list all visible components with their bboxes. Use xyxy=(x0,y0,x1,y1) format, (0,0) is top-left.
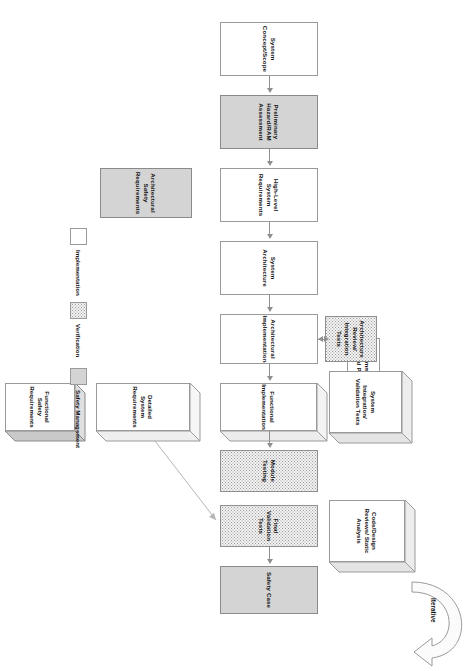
legend-label: Safety Management xyxy=(75,390,82,448)
node-label: Architecture Review/ Integration Tests xyxy=(336,319,366,359)
arrowhead-icon xyxy=(267,443,273,448)
node-label: Preliminary Hazard/RAM Assessment xyxy=(258,98,281,146)
node-label: Architectural Implementation xyxy=(261,315,276,362)
legend-item-verification: Verification xyxy=(70,302,87,357)
legend-label: Implementation xyxy=(75,250,82,296)
node-high-level-system-requirements[interactable]: High-Level System Requirements xyxy=(220,168,318,222)
arrowhead-icon xyxy=(267,376,273,381)
legend-swatch-safety-management xyxy=(70,368,87,385)
node-system-integration-validation-tests[interactable]: System Integration/ Validation Tests xyxy=(329,371,412,443)
iterative-label: Iterative xyxy=(430,598,437,623)
arrowhead-icon xyxy=(267,307,273,312)
node-label: Safety Case xyxy=(265,572,273,608)
node-architectural-implementation[interactable]: Architectural Implementation xyxy=(220,314,318,364)
node-label: High-Level System Requirements xyxy=(258,171,281,219)
node-label: System Concept/Scope xyxy=(261,25,276,73)
legend: Implementation Verification Safety Manag… xyxy=(47,228,87,458)
node-label: System Architecture xyxy=(261,244,276,292)
legend-swatch-verification xyxy=(70,302,87,319)
node-final-validation-tests[interactable]: Final Validation Tests xyxy=(220,505,318,547)
node-preliminary-hazard-ram-assessment[interactable]: Preliminary Hazard/RAM Assessment xyxy=(220,95,318,149)
arrowhead-icon xyxy=(267,559,273,564)
legend-swatch-implementation xyxy=(70,228,87,245)
legend-item-safety-management: Safety Management xyxy=(70,368,87,448)
node-functional-implementation[interactable]: Functional Implementation xyxy=(220,383,327,441)
node-system-concept-scope[interactable]: System Concept/Scope xyxy=(220,22,318,76)
node-label: Detailed System Requirements xyxy=(132,386,155,428)
node-detailed-system-requirements[interactable]: Detailed System Requirements xyxy=(96,383,200,441)
node-label: Architectural Safety Requirements xyxy=(135,171,158,215)
node-label: Functional Implementation xyxy=(261,384,276,430)
legend-item-implementation: Implementation xyxy=(70,228,87,296)
node-architectural-safety-requirements[interactable]: Architectural Safety Requirements xyxy=(100,168,192,218)
arrowhead-icon xyxy=(267,88,273,93)
node-label: Final Validation Tests xyxy=(258,508,281,544)
legend-label: Verification xyxy=(75,324,82,357)
node-label: Code/Design Reviews/ Static Analysis xyxy=(356,503,379,559)
node-label: Module Testing xyxy=(261,453,276,489)
node-architecture-review-integration[interactable]: Architecture Review/ Integration Tests xyxy=(325,316,377,362)
arrowhead-icon xyxy=(318,336,323,342)
node-system-architecture[interactable]: System Architecture xyxy=(220,241,318,295)
node-safety-case[interactable]: Safety Case xyxy=(220,566,318,614)
node-label: System Integration/ Validation Tests xyxy=(354,374,377,430)
arrowhead-icon xyxy=(324,336,329,342)
arrowhead-icon xyxy=(267,234,273,239)
arrowhead-icon xyxy=(267,161,273,166)
node-module-testing[interactable]: Module Testing xyxy=(220,450,318,492)
